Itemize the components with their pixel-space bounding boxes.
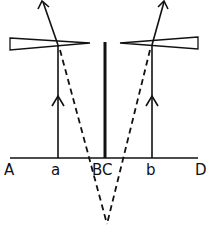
right-virtual-ray (107, 50, 150, 224)
left-virtual-ray (60, 50, 107, 224)
label-a: a (51, 161, 60, 179)
right-prism (120, 37, 198, 49)
label-D: D (195, 161, 207, 179)
label-b: b (146, 161, 156, 179)
prism-ray-diagram: A a BC b D (0, 0, 208, 226)
left-prism (10, 38, 90, 50)
label-A: A (4, 161, 15, 179)
right-refracted-ray (152, 2, 164, 45)
left-refracted-ray (43, 2, 58, 45)
label-BC: BC (92, 161, 113, 179)
